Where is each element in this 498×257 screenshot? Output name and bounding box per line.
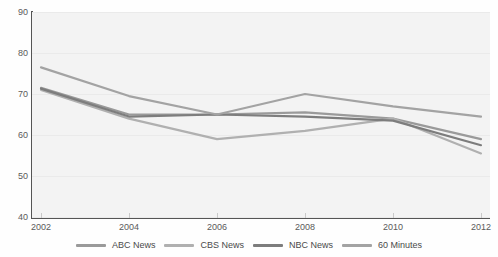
y-tick-label: 80	[2, 49, 28, 58]
y-tick-label: 40	[2, 213, 28, 222]
x-tick-label: 2006	[187, 222, 247, 232]
x-tick-label: 2010	[363, 222, 423, 232]
x-tick-label: 2008	[275, 222, 335, 232]
x-tick-mark	[129, 213, 130, 218]
x-tick-mark	[481, 213, 482, 218]
chart-root: 405060708090 200220042006200820102012 AB…	[0, 0, 498, 257]
legend-item[interactable]: NBC News	[253, 240, 333, 250]
y-tick-label: 90	[2, 8, 28, 17]
x-tick-mark	[217, 213, 218, 218]
series-line-cbs-news	[41, 90, 481, 154]
series-line-nbc-news	[41, 89, 481, 146]
x-tick-mark	[41, 213, 42, 218]
y-axis-labels: 405060708090	[0, 0, 28, 257]
legend-item[interactable]: ABC News	[76, 240, 156, 250]
x-tick-label: 2012	[451, 222, 498, 232]
gridline	[32, 217, 490, 218]
legend-swatch-icon	[76, 244, 106, 247]
legend-label: 60 Minutes	[378, 240, 422, 250]
x-tick-label: 2002	[11, 222, 71, 232]
legend-swatch-icon	[342, 244, 372, 247]
x-tick-mark	[305, 213, 306, 218]
x-tick-label: 2004	[99, 222, 159, 232]
series-line-abc-news	[41, 88, 481, 139]
series-lines	[32, 12, 490, 217]
legend-item[interactable]: CBS News	[164, 240, 244, 250]
legend-item[interactable]: 60 Minutes	[342, 240, 422, 250]
x-tick-mark	[393, 213, 394, 218]
y-tick-label: 50	[2, 172, 28, 181]
legend-label: ABC News	[112, 240, 156, 250]
legend-label: CBS News	[200, 240, 244, 250]
legend-label: NBC News	[289, 240, 333, 250]
y-tick-label: 60	[2, 131, 28, 140]
chart-legend: ABC NewsCBS NewsNBC News60 Minutes	[0, 238, 498, 252]
legend-swatch-icon	[164, 244, 194, 247]
plot-area	[32, 12, 490, 217]
y-tick-label: 70	[2, 90, 28, 99]
legend-swatch-icon	[253, 244, 283, 247]
